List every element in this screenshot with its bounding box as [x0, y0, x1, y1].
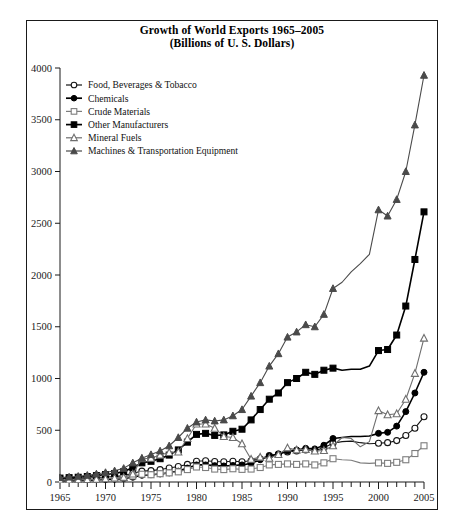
marker-filled-square: [412, 256, 418, 262]
marker-filled-triangle: [120, 465, 127, 472]
marker-filled-triangle: [275, 350, 282, 357]
marker-filled-square: [71, 122, 77, 128]
x-tick-label: 1970: [95, 492, 116, 503]
marker-open-square: [421, 443, 427, 449]
legend-label: Chemicals: [88, 93, 129, 104]
legend-label: Mineral Fuels: [88, 132, 142, 143]
legend-item[interactable]: Crude Materials: [66, 106, 150, 117]
marker-filled-square: [421, 209, 427, 215]
legend-label: Other Manufacturers: [88, 119, 168, 130]
marker-filled-circle: [394, 423, 400, 429]
y-tick-label: 3500: [31, 114, 52, 125]
marker-open-triangle: [211, 424, 218, 431]
marker-filled-triangle: [157, 447, 164, 454]
x-tick-label: 1980: [186, 492, 207, 503]
marker-open-triangle: [239, 440, 246, 447]
marker-open-square: [385, 460, 391, 466]
legend-label: Food, Beverages & Tobacco: [88, 79, 197, 90]
marker-open-square: [303, 461, 309, 467]
marker-open-square: [194, 464, 200, 470]
marker-open-square: [203, 465, 209, 471]
marker-filled-square: [266, 396, 272, 402]
marker-filled-triangle: [229, 412, 236, 419]
marker-open-square: [221, 467, 227, 473]
y-tick-label: 2000: [31, 270, 52, 281]
marker-filled-triangle: [330, 285, 337, 292]
marker-filled-circle: [412, 390, 418, 396]
legend-item[interactable]: Food, Beverages & Tobacco: [66, 79, 197, 90]
marker-filled-square: [248, 417, 254, 423]
y-tick-label: 3000: [31, 166, 52, 177]
legend-item[interactable]: Chemicals: [66, 93, 129, 104]
marker-filled-square: [385, 347, 391, 353]
marker-open-triangle: [411, 370, 418, 377]
marker-filled-triangle: [302, 321, 309, 328]
marker-filled-triangle: [402, 168, 409, 175]
marker-filled-triangle: [257, 379, 264, 386]
marker-filled-triangle: [184, 424, 191, 431]
marker-filled-circle: [403, 409, 409, 415]
marker-open-triangle: [184, 435, 191, 442]
marker-filled-square: [394, 332, 400, 338]
marker-open-square: [294, 461, 300, 467]
marker-filled-square: [257, 407, 263, 413]
x-tick-label: 1965: [50, 492, 71, 503]
marker-filled-triangle: [220, 416, 227, 423]
marker-open-square: [139, 471, 145, 477]
marker-filled-circle: [385, 429, 391, 435]
x-tick-label: 1975: [141, 492, 162, 503]
line-chart-plot: 0500100015002000250030003500400019651970…: [0, 0, 464, 523]
marker-open-circle: [412, 425, 418, 431]
marker-open-circle: [394, 438, 400, 444]
marker-open-square: [212, 466, 218, 472]
marker-filled-square: [203, 430, 209, 436]
marker-filled-triangle: [148, 451, 155, 458]
marker-filled-square: [312, 371, 318, 377]
marker-open-square: [394, 459, 400, 465]
x-tick-label: 2000: [368, 492, 389, 503]
y-tick-label: 1000: [31, 373, 52, 384]
marker-filled-triangle: [375, 206, 382, 213]
chart-page: Growth of World Exports 1965–2005 (Billi…: [0, 0, 464, 523]
y-tick-label: 4000: [31, 63, 52, 74]
marker-filled-square: [330, 365, 336, 371]
marker-open-square: [71, 109, 77, 115]
marker-open-triangle: [402, 396, 409, 403]
y-tick-label: 0: [47, 477, 52, 488]
marker-open-square: [412, 451, 418, 457]
marker-filled-square: [194, 431, 200, 437]
marker-filled-triangle: [393, 196, 400, 203]
marker-filled-square: [403, 303, 409, 309]
marker-open-square: [266, 462, 272, 468]
legend-item[interactable]: Other Manufacturers: [66, 119, 168, 130]
legend-label: Machines & Transportation Equipment: [88, 145, 238, 156]
marker-open-circle: [376, 440, 382, 446]
marker-open-square: [230, 466, 236, 472]
marker-open-circle: [385, 440, 391, 446]
marker-open-square: [321, 460, 327, 466]
y-tick-label: 500: [36, 425, 52, 436]
marker-open-square: [184, 467, 190, 473]
marker-filled-square: [294, 376, 300, 382]
x-tick-label: 1995: [323, 492, 344, 503]
marker-filled-triangle: [320, 311, 327, 318]
marker-filled-triangle: [129, 459, 136, 466]
marker-filled-triangle: [138, 454, 145, 461]
marker-open-triangle: [393, 410, 400, 417]
marker-open-square: [285, 461, 291, 467]
marker-open-triangle: [284, 444, 291, 451]
marker-filled-triangle: [421, 72, 428, 79]
marker-open-square: [312, 462, 318, 468]
marker-open-circle: [71, 82, 77, 88]
marker-filled-square: [239, 426, 245, 432]
marker-open-square: [175, 469, 181, 475]
legend-item[interactable]: Mineral Fuels: [66, 132, 142, 143]
legend-item[interactable]: Machines & Transportation Equipment: [66, 145, 238, 156]
marker-open-square: [403, 457, 409, 463]
y-tick-label: 1500: [31, 321, 52, 332]
marker-filled-square: [376, 348, 382, 354]
marker-filled-triangle: [202, 416, 209, 423]
marker-filled-square: [212, 432, 218, 438]
marker-open-square: [239, 466, 245, 472]
marker-filled-square: [285, 380, 291, 386]
